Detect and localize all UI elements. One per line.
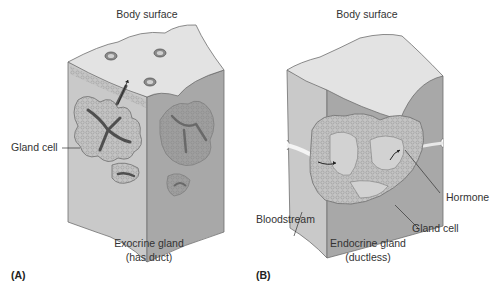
panel-label-b: (B) — [256, 269, 271, 281]
label-b-hormone: Hormone — [446, 191, 489, 203]
label-a-body-surface: Body surface — [116, 8, 177, 20]
label-b-gland-cell: Gland cell — [412, 222, 459, 234]
caption-b-line1: Endocrine gland — [330, 237, 406, 249]
label-b-body-surface: Body surface — [336, 8, 397, 20]
diagram-artwork — [0, 0, 494, 286]
label-a-gland-cell: Gland cell — [11, 141, 58, 153]
caption-a-line2: (has duct) — [126, 251, 173, 263]
label-b-bloodstream: Bloodstream — [256, 213, 315, 225]
panel-label-a: (A) — [11, 269, 26, 281]
caption-a-line1: Exocrine gland — [114, 237, 183, 249]
caption-b-line2: (ductless) — [345, 251, 391, 263]
gland-diagram-figure: Body surface Gland cell Exocrine gland (… — [0, 0, 494, 286]
exocrine-block — [62, 25, 224, 262]
